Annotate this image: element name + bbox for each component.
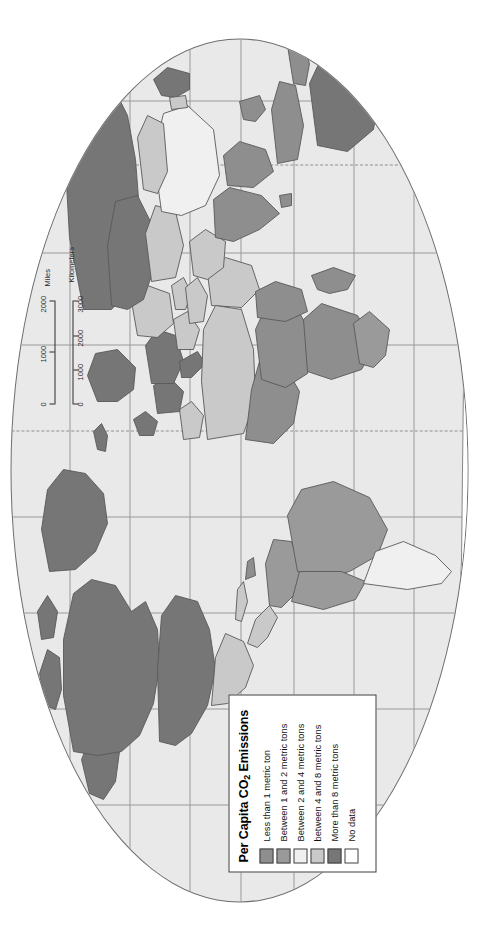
region-iberia <box>179 401 203 439</box>
region-madagascar <box>311 267 355 293</box>
region-greenland <box>41 469 107 571</box>
region-india <box>213 187 279 241</box>
legend-label-3: between 4 and 8 metric tons <box>312 724 322 841</box>
legend-item-2[interactable]: Between 2 and 4 metric tons <box>291 703 308 863</box>
region-new-zealand <box>357 38 379 45</box>
scale-tick <box>49 403 54 404</box>
legend-title-subscript: 2 <box>241 774 251 779</box>
region-canada <box>63 579 159 755</box>
rotated-map-container: 0 1000 2000 Miles 0 1000 2000 3000 Kilom… <box>0 0 477 940</box>
region-east-africa <box>255 281 307 321</box>
scale-tick <box>49 351 54 352</box>
map-page: 0 1000 2000 Miles 0 1000 2000 3000 Kilom… <box>0 0 477 940</box>
region-philippines <box>239 95 265 121</box>
legend-swatch-1 <box>276 848 290 863</box>
map-legend: Per Capita CO2 Emissions Less than 1 met… <box>228 694 376 872</box>
legend-label-1: Between 1 and 2 metric tons <box>278 723 288 841</box>
region-central-america <box>247 605 277 647</box>
region-japan <box>153 67 189 97</box>
legend-label-4: More than 8 metric tons <box>329 743 339 841</box>
region-korea <box>169 95 187 109</box>
legend-title-main: Per Capita CO <box>236 779 250 862</box>
scale-bar: 0 1000 2000 Miles 0 1000 2000 3000 Kilom… <box>36 280 92 404</box>
region-scandinavia <box>87 349 135 401</box>
legend-label-2: Between 2 and 4 metric tons <box>295 723 305 841</box>
region-arctic-islands <box>39 649 61 709</box>
legend-title-tail: Emissions <box>236 709 250 774</box>
legend-item-0[interactable]: Less than 1 metric ton <box>257 703 274 863</box>
region-british-isles <box>133 411 157 435</box>
region-southeast-asia <box>223 141 273 187</box>
scale-label-km-2000: 2000 <box>76 329 84 346</box>
region-united-states <box>157 595 215 745</box>
scale-label-miles-0: 0 <box>39 402 47 406</box>
region-antarctica <box>435 63 468 841</box>
legend-swatch-0 <box>259 848 273 863</box>
legend-label-0: Less than 1 metric ton <box>261 750 271 841</box>
region-kazakhstan <box>145 205 183 281</box>
region-cuba <box>235 581 247 621</box>
legend-label-5: No data <box>346 808 356 841</box>
scale-label-km-0: 0 <box>76 402 84 406</box>
region-russia-west <box>107 195 153 309</box>
region-arctic-islands <box>37 595 57 639</box>
region-sri-lanka <box>279 193 291 207</box>
legend-swatch-4 <box>327 848 341 863</box>
region-tasmania <box>381 71 393 89</box>
legend-swatch-3 <box>310 848 324 863</box>
region-indonesia <box>271 81 303 163</box>
scale-label-km-1000: 1000 <box>76 363 84 380</box>
legend-item-5[interactable]: No data <box>342 703 359 863</box>
legend-item-1[interactable]: Between 1 and 2 metric tons <box>274 703 291 863</box>
legend-item-3[interactable]: between 4 and 8 metric tons <box>308 703 325 863</box>
legend-swatch-2 <box>293 848 307 863</box>
scale-bar-miles-line: 0 1000 2000 Miles <box>54 300 55 404</box>
scale-tick <box>49 300 54 301</box>
scale-label-km-3000: 3000 <box>76 295 84 312</box>
scale-unit-miles: Miles <box>43 268 51 286</box>
region-north-africa <box>201 305 255 439</box>
region-south-africa <box>353 311 389 367</box>
region-iceland <box>93 423 107 451</box>
legend-title: Per Capita CO2 Emissions <box>236 703 250 862</box>
region-australia <box>309 53 379 151</box>
region-turkey <box>185 277 207 323</box>
scale-bar-kilometers-line: 0 1000 2000 3000 Kilometers <box>72 300 73 404</box>
region-new-guinea <box>287 39 309 85</box>
region-mongolia <box>137 115 167 193</box>
region-italy <box>179 351 205 377</box>
scale-label-miles-1000: 1000 <box>39 345 47 362</box>
legend-item-4[interactable]: More than 8 metric tons <box>325 703 342 863</box>
scale-unit-kilometers: Kilometers <box>67 247 75 282</box>
region-hispaniola <box>245 557 255 579</box>
region-peru-bolivia <box>291 571 365 609</box>
legend-swatch-5 <box>344 848 358 863</box>
map-plate: 0 1000 2000 Miles 0 1000 2000 3000 Kilom… <box>0 0 477 940</box>
region-new-zealand <box>381 41 395 55</box>
scale-label-miles-2000: 2000 <box>39 295 47 312</box>
